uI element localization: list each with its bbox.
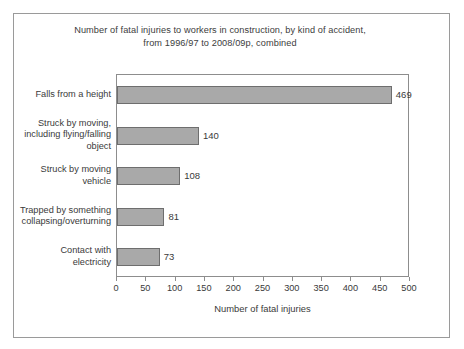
chart-title-line-2: from 1996/97 to 2008/09p, combined xyxy=(30,37,410,50)
bar xyxy=(117,208,164,226)
category-label-line: collapsing/overturning xyxy=(10,216,111,228)
x-axis-title: Number of fatal injuries xyxy=(116,303,409,314)
category-label: Struck by moving,including flying/fallin… xyxy=(10,118,111,153)
category-label-line: Falls from a height xyxy=(10,89,111,101)
category-label: Trapped by somethingcollapsing/overturni… xyxy=(10,205,111,228)
bar xyxy=(117,167,180,185)
category-label: Struck by movingvehicle xyxy=(10,164,111,187)
tick-mark xyxy=(350,277,351,281)
bar-value-label: 81 xyxy=(164,208,179,226)
tick-label: 500 xyxy=(401,283,416,294)
tick-label: 150 xyxy=(196,283,211,294)
bar-value-label: 469 xyxy=(392,86,412,104)
category-label-line: vehicle xyxy=(10,176,111,188)
plot-area: 4691401088173 xyxy=(116,74,409,277)
chart-title-line-1: Number of fatal injuries to workers in c… xyxy=(30,24,410,37)
tick-label: 400 xyxy=(343,283,358,294)
bar-value-label: 140 xyxy=(199,127,219,145)
tick-mark xyxy=(204,277,205,281)
tick-label: 50 xyxy=(140,283,150,294)
tick-mark xyxy=(116,277,117,281)
bar-value-label: 73 xyxy=(160,248,175,266)
chart-title: Number of fatal injuries to workers in c… xyxy=(30,24,410,50)
category-label-line: Contact with xyxy=(10,245,111,257)
tick-label: 300 xyxy=(284,283,299,294)
category-label-line: including flying/falling xyxy=(10,129,111,141)
bar-row xyxy=(117,156,408,197)
category-label-line: Struck by moving xyxy=(10,164,111,176)
tick-mark xyxy=(380,277,381,281)
tick-label: 0 xyxy=(113,283,118,294)
tick-label: 200 xyxy=(226,283,241,294)
category-label-line: Trapped by something xyxy=(10,205,111,217)
bar-value-label: 108 xyxy=(180,167,200,185)
tick-mark xyxy=(233,277,234,281)
category-label-line: electricity xyxy=(10,257,111,269)
bar-row xyxy=(117,75,408,116)
value-axis-ticks: 050100150200250300350400450500 xyxy=(116,277,409,303)
category-label-line: object xyxy=(10,141,111,153)
tick-mark xyxy=(292,277,293,281)
category-label: Falls from a height xyxy=(10,89,111,101)
bar xyxy=(117,127,199,145)
tick-label: 100 xyxy=(167,283,182,294)
tick-mark xyxy=(409,277,410,281)
tick-mark xyxy=(321,277,322,281)
tick-mark xyxy=(263,277,264,281)
tick-mark xyxy=(175,277,176,281)
tick-label: 350 xyxy=(313,283,328,294)
bar xyxy=(117,86,392,104)
category-label: Contact withelectricity xyxy=(10,245,111,268)
bar-row xyxy=(117,197,408,238)
category-axis-labels: Falls from a heightStruck by moving,incl… xyxy=(10,74,111,277)
category-label-line: Struck by moving, xyxy=(10,118,111,130)
tick-label: 250 xyxy=(255,283,270,294)
tick-mark xyxy=(145,277,146,281)
tick-label: 450 xyxy=(372,283,387,294)
bar-row xyxy=(117,116,408,157)
bars-layer xyxy=(117,75,408,276)
bar xyxy=(117,248,160,266)
